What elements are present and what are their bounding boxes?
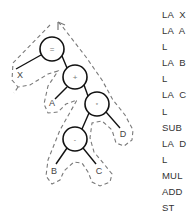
node-add: + [63,65,87,89]
code-line: L [162,71,186,87]
svg-text:+: + [73,73,78,82]
code-line: LA A [162,23,186,39]
code-line: ADD [162,184,186,200]
code-line: LA C [162,87,186,103]
leaf-b: B [51,166,57,176]
code-line: LA B [162,55,186,71]
code-line: SUB [162,120,186,136]
leaf-d: D [120,129,127,139]
code-line: L [162,152,186,168]
leaf-x: X [17,70,23,80]
leaf-c: C [96,166,103,176]
code-line: MUL [162,168,186,184]
code-line: L [162,39,186,55]
node-sub: - [63,127,87,151]
node-mul: * [85,92,109,116]
code-line: L [162,104,186,120]
svg-text:=: = [50,45,55,54]
node-assign: = [40,37,64,61]
code-line: LA X [162,7,186,23]
code-listing: LA X LA A L LA B L LA C L SUB LA D L MUL… [162,7,186,216]
leaf-a: A [49,98,55,108]
code-line: LA D [162,136,186,152]
traversal-path [12,22,133,186]
code-line: ST [162,200,186,216]
